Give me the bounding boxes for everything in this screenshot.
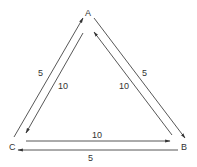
triangle-diagram: A B C 5 10 5 10 10 5 xyxy=(0,0,197,167)
node-b-label: B xyxy=(181,142,187,152)
edge-c-to-b-weight: 10 xyxy=(92,130,102,140)
edge-c-to-a-weight: 5 xyxy=(38,68,43,78)
node-c-label: C xyxy=(9,142,16,152)
edge-c-to-a-arrow xyxy=(14,18,83,137)
edge-b-to-a-weight: 10 xyxy=(119,81,129,91)
edge-b-to-a-arrow xyxy=(94,32,172,135)
edge-b-to-c-weight: 5 xyxy=(88,153,93,163)
node-a-label: A xyxy=(85,8,91,18)
edge-a-to-c-weight: 10 xyxy=(58,81,68,91)
edge-a-to-c-arrow xyxy=(26,33,83,133)
edge-a-to-b-arrow xyxy=(94,18,185,138)
edge-a-to-b-weight: 5 xyxy=(142,68,147,78)
